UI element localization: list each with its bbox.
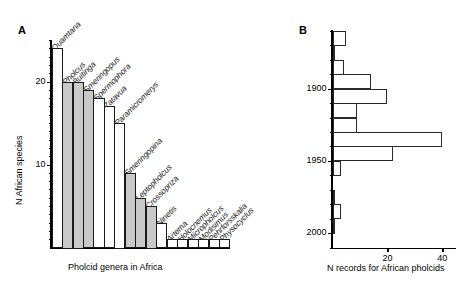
panel-b-bar <box>333 118 358 133</box>
panel-a-bar <box>93 98 104 248</box>
panel-a-bar <box>83 90 94 249</box>
panel-b-x-axis-title: N records for African pholcids <box>327 263 445 273</box>
panel-a-bar <box>146 206 157 249</box>
panel-b-x-tick-label: 40 <box>433 253 451 263</box>
panel-a-y-tick-label: 10 <box>30 159 46 169</box>
panel-a-bar <box>73 82 84 249</box>
panel-a-bar <box>125 173 136 249</box>
figure-root: A N African species Pholcid genera in Af… <box>0 0 476 291</box>
panel-a: A N African species Pholcid genera in Af… <box>0 0 276 291</box>
panel-a-bar <box>209 239 220 248</box>
panel-b-bar <box>333 161 341 176</box>
panel-b-x-major-tick <box>387 248 388 253</box>
panel-a-y-minor-tick <box>49 40 52 41</box>
panel-b: B N records for African pholcids 1900195… <box>276 0 476 291</box>
panel-a-bar <box>198 239 209 248</box>
panel-b-bar <box>333 204 341 219</box>
panel-b-bar <box>333 146 393 161</box>
panel-b-bar <box>333 132 443 147</box>
panel-a-bar <box>167 239 178 248</box>
panel-b-x-major-tick <box>442 248 443 253</box>
panel-b-x-axis-line <box>331 248 456 250</box>
panel-b-bar <box>333 45 336 60</box>
panel-b-y-tick-label: 1950 <box>300 155 327 165</box>
panel-a-bar <box>188 239 199 248</box>
panel-b-y-tick-label: 1900 <box>300 83 327 93</box>
panel-b-bar <box>333 89 388 104</box>
panel-b-bar <box>333 190 336 205</box>
panel-a-bar <box>177 239 188 248</box>
panel-a-bar <box>156 223 167 249</box>
panel-b-bar <box>333 74 371 89</box>
panel-a-bar <box>52 48 63 248</box>
panel-a-x-axis-title: Pholcid genera in Africa <box>68 262 163 272</box>
panel-a-y-tick-label: 20 <box>30 76 46 86</box>
panel-a-y-axis-title: N African species <box>14 135 24 205</box>
panel-b-bar <box>333 60 344 75</box>
panel-b-x-tick-label: 20 <box>378 253 396 263</box>
panel-a-bar <box>114 123 125 249</box>
panel-b-bar <box>333 219 336 234</box>
panel-a-bar <box>62 82 73 249</box>
panel-a-bar <box>219 239 230 248</box>
panel-a-bar <box>135 198 146 249</box>
panel-b-y-minor-tick <box>330 248 333 249</box>
panel-b-y-tick-label: 2000 <box>300 227 327 237</box>
panel-b-letter: B <box>299 24 307 36</box>
panel-b-bar <box>333 103 358 118</box>
panel-b-bar <box>333 31 347 46</box>
panel-a-bar <box>104 106 115 248</box>
panel-a-letter: A <box>18 24 26 36</box>
